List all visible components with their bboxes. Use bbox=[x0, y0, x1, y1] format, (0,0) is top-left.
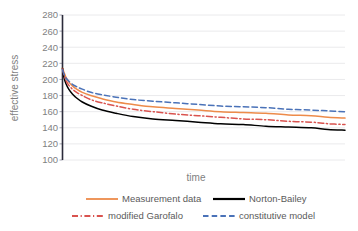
y-axis-tick-label: 160 bbox=[42, 106, 58, 117]
y-axis-tick-label: 180 bbox=[42, 90, 58, 101]
legend-label-measurement-data: Measurement data bbox=[122, 193, 202, 204]
y-axis-tick-label: 140 bbox=[42, 122, 58, 133]
y-axis-tick-label: 260 bbox=[42, 26, 58, 37]
chart-container: 100120140160180200220240260280 effective… bbox=[0, 0, 358, 231]
y-axis-tick-label: 220 bbox=[42, 58, 58, 69]
y-axis-tick-label: 240 bbox=[42, 42, 58, 53]
legend-label-constitutive-model: constitutive model bbox=[239, 210, 315, 221]
y-axis-tick-label: 280 bbox=[42, 9, 58, 20]
y-axis-tick-label: 100 bbox=[42, 154, 58, 165]
x-axis-title: time bbox=[187, 172, 206, 183]
y-axis-tick-label: 200 bbox=[42, 74, 58, 85]
y-axis-title: effective stress bbox=[9, 55, 20, 122]
effective-stress-time-chart: 100120140160180200220240260280 effective… bbox=[0, 0, 358, 231]
y-axis-tick-label: 120 bbox=[42, 138, 58, 149]
legend-label-modified-garofalo: modified Garofalo bbox=[108, 210, 183, 221]
legend-label-norton-bailey: Norton-Bailey bbox=[249, 193, 307, 204]
